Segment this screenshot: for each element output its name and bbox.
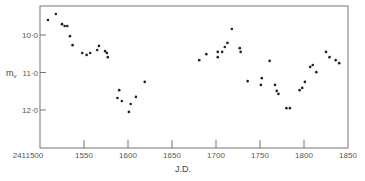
data-point <box>61 23 64 26</box>
data-point <box>85 54 88 57</box>
x-axis-label: J.D. <box>175 164 191 174</box>
data-point <box>129 103 132 106</box>
data-point <box>226 42 229 45</box>
y-tick-label: 10·0 <box>22 31 39 40</box>
data-point <box>128 111 131 114</box>
x-tick-label: 1700 <box>207 151 225 160</box>
y-tick-label: 12·0 <box>22 106 39 115</box>
data-point <box>325 51 328 54</box>
x-tick-label: 2411500 <box>13 151 44 160</box>
data-point <box>98 45 101 48</box>
y-axis-label-subscript: v <box>14 73 17 79</box>
data-point <box>216 56 219 59</box>
data-point <box>47 19 50 22</box>
x-tick-label: 1750 <box>251 151 269 160</box>
data-point <box>328 56 331 59</box>
data-point <box>96 49 99 52</box>
light-curve-chart: 10·011·012·0 241150015501600165017001750… <box>0 0 365 181</box>
data-point <box>198 59 201 62</box>
data-point <box>205 53 208 56</box>
data-point <box>106 56 109 59</box>
x-tick-label: 1600 <box>119 151 137 160</box>
data-point <box>285 107 288 110</box>
data-point <box>268 60 271 63</box>
y-axis: 10·011·012·0 <box>22 31 46 115</box>
data-point <box>246 80 249 83</box>
plot-frame <box>40 6 348 148</box>
x-tick-label: 1850 <box>339 151 357 160</box>
x-tick-label: 1800 <box>295 151 313 160</box>
data-point <box>81 52 84 55</box>
data-point <box>289 107 292 110</box>
data-point <box>260 84 263 87</box>
data-point <box>301 87 304 90</box>
data-point <box>135 96 138 99</box>
y-tick-label: 11·0 <box>23 69 39 78</box>
data-point <box>231 28 234 31</box>
x-tick-label: 1650 <box>163 151 181 160</box>
data-point <box>121 100 124 103</box>
data-point <box>277 93 280 96</box>
data-point <box>143 81 146 84</box>
data-point <box>63 25 66 28</box>
data-point <box>118 89 121 92</box>
data-point <box>238 47 241 50</box>
data-point <box>298 89 301 92</box>
data-point <box>66 25 69 28</box>
data-point <box>216 51 219 54</box>
data-point <box>315 71 318 74</box>
data-points <box>47 13 341 113</box>
data-point <box>304 81 307 84</box>
data-point <box>338 62 341 65</box>
data-point <box>309 66 312 69</box>
y-axis-label: mv <box>6 68 17 79</box>
data-point <box>312 64 315 67</box>
data-point <box>116 97 119 100</box>
data-point <box>274 84 277 87</box>
data-point <box>224 46 227 49</box>
data-point <box>89 52 92 55</box>
x-tick-label: 1550 <box>75 151 93 160</box>
x-axis: 24115001550160016501700175018001850 <box>13 140 358 160</box>
data-point <box>260 77 263 80</box>
data-point <box>71 44 74 47</box>
data-point <box>55 13 58 16</box>
data-point <box>239 51 242 54</box>
data-point <box>275 90 278 93</box>
data-point <box>106 52 109 55</box>
data-point <box>69 35 72 38</box>
data-point <box>221 51 224 54</box>
data-point <box>334 59 337 62</box>
